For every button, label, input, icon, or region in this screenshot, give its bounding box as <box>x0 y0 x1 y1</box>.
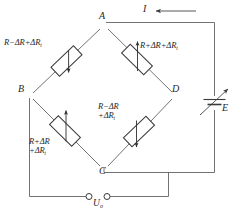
output-terminal-left[interactable] <box>86 194 92 200</box>
resistor-bottom-left-label: R+ΔR +ΔRt <box>29 137 50 155</box>
resistor-top-right-label-text: R+ΔR+ΔR <box>140 40 176 50</box>
source-label-E: E <box>222 103 228 114</box>
circuit-diagram-canvas: A B C D R−ΔR+ΔRt R+ΔR+ΔRt R+ΔR +ΔRt R−ΔR… <box>0 0 247 219</box>
resistor-top-left <box>51 46 82 76</box>
resistor-bottom-right <box>123 116 154 147</box>
node-label-C: C <box>99 166 106 177</box>
output-voltage-symbol: U <box>93 198 100 208</box>
resistor-bottom-left <box>50 111 81 147</box>
output-voltage-subscript: o <box>100 203 103 209</box>
resistor-top-left-label-sub: t <box>40 42 41 48</box>
resistor-top-right-label-sub: t <box>176 45 177 51</box>
resistor-bottom-right-label-line2: +ΔRt <box>98 111 119 120</box>
current-label: I <box>143 4 146 15</box>
resistor-top-left-label: R−ΔR+ΔRt <box>4 38 42 47</box>
circuit-schematic-svg <box>0 0 247 219</box>
node-label-D: D <box>172 84 179 95</box>
node-label-B: B <box>18 84 24 95</box>
resistor-bottom-left-label-line2: +ΔRt <box>29 146 50 155</box>
resistor-top-right-label: R+ΔR+ΔRt <box>140 41 178 50</box>
output-terminal-right[interactable] <box>104 194 110 200</box>
resistor-bottom-right-label: R−ΔR +ΔRt <box>98 102 119 120</box>
resistor-top-left-label-text: R−ΔR+ΔR <box>4 37 40 47</box>
output-voltage-label: Uo <box>93 199 103 209</box>
node-label-A: A <box>99 11 105 22</box>
